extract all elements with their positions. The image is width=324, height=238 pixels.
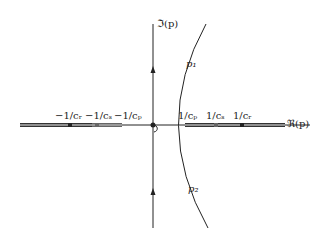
real-axis-label: ℜ(p)	[287, 118, 309, 129]
point-neg-1-cr	[68, 123, 72, 127]
point-p2-label: p₂	[188, 183, 198, 194]
label-1-cs: 1/cₛ	[206, 110, 225, 121]
diagram-graphics	[0, 0, 324, 238]
label-1-cr: 1/cᵣ	[233, 110, 252, 121]
label-1-cp: 1/cₚ	[178, 110, 197, 121]
label-neg-1-cs: −1/cₛ	[85, 110, 112, 121]
label-neg-1-cp: −1/cₚ	[114, 110, 142, 121]
label-neg-1-cr: −1/cᵣ	[55, 110, 82, 121]
complex-plane-diagram: ℑ(p) ℜ(p) p₁ p₂ −1/cᵣ −1/cₛ −1/cₚ 1/cₚ 1…	[0, 0, 324, 238]
point-1-cr	[240, 123, 244, 127]
arrow-up-icon	[151, 66, 156, 73]
imaginary-axis-label: ℑ(p)	[157, 18, 178, 29]
point-1-cs	[214, 123, 218, 127]
point-p1-label: p₁	[186, 58, 196, 69]
arrow-up-icon	[151, 188, 156, 195]
point-neg-1-cs	[95, 123, 99, 127]
